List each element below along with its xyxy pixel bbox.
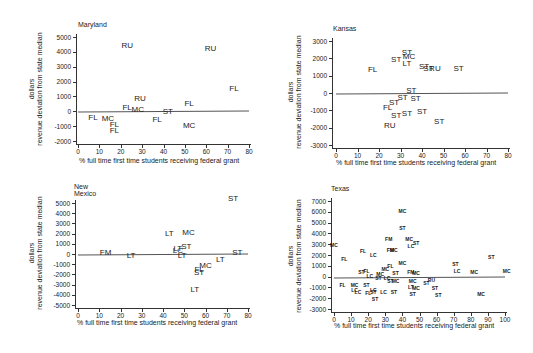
data-point-label: ST: [434, 118, 444, 126]
data-point-label: MC: [409, 278, 417, 283]
y-tick: [328, 223, 331, 224]
data-point-label: MC: [503, 269, 511, 274]
x-tick-label: 70: [220, 148, 236, 155]
y-tick: [72, 305, 75, 306]
data-point-label: MC: [477, 291, 485, 296]
y-tick-label: -3000: [297, 142, 327, 149]
y-tick-label: 7000: [296, 198, 326, 205]
data-point-label: ST: [370, 289, 376, 294]
chart-title: New Mexico: [74, 183, 96, 197]
x-axis: [332, 148, 510, 149]
data-point-label: FL: [368, 66, 377, 74]
data-point-label: LC: [355, 289, 362, 294]
data-point-label: FM: [385, 236, 392, 241]
x-tick-label: 0: [70, 312, 86, 319]
data-point-label: ST: [392, 271, 398, 276]
x-tick-label: 60: [429, 316, 445, 323]
data-point-label: RU: [134, 95, 146, 103]
y-tick-label: -5000: [40, 302, 70, 309]
y-tick-label: 4000: [40, 210, 70, 217]
x-tick-label: 80: [241, 148, 257, 155]
data-point-label: MC: [132, 106, 144, 114]
data-point-label: MC: [390, 247, 398, 252]
y-tick: [72, 285, 75, 286]
data-point-label: FL: [122, 104, 131, 112]
y-tick: [73, 82, 76, 83]
y-tick: [328, 233, 331, 234]
x-tick-label: 60: [457, 152, 473, 159]
data-point-label: MC: [182, 229, 194, 237]
y-tick-label: 3000: [40, 220, 70, 227]
y-tick-label: -2000: [297, 124, 327, 131]
y-tick-label: 3000: [296, 241, 326, 248]
data-point-label: RU: [121, 42, 133, 50]
data-point-label: RU: [205, 45, 217, 53]
y-tick: [72, 234, 75, 235]
x-tick-label: 70: [219, 312, 235, 319]
y-tick-label: 0: [40, 251, 70, 258]
y-tick-label: 6000: [296, 208, 326, 215]
x-tick-label: 80: [240, 312, 256, 319]
x-axis-label: % full time first time students receivin…: [77, 319, 237, 326]
data-point-label: ST: [488, 255, 494, 260]
y-tick: [73, 141, 76, 142]
data-point-label: ST: [423, 281, 429, 286]
data-point-label: ST: [409, 291, 415, 296]
y-tick: [73, 96, 76, 97]
data-point-label: LC: [367, 273, 374, 278]
y-axis: [75, 200, 76, 308]
x-tick-label: 0: [328, 152, 344, 159]
x-tick-label: 10: [91, 312, 107, 319]
y-tick: [328, 212, 331, 213]
y-tick-label: 5000: [296, 219, 326, 226]
data-point-label: ST: [402, 110, 412, 118]
y-tick-label: -1000: [40, 261, 70, 268]
data-point-label: LT: [178, 252, 187, 260]
y-tick: [328, 309, 331, 310]
data-point-label: FL: [184, 100, 193, 108]
data-point-label: ST: [391, 112, 401, 120]
x-tick-label: 0: [70, 148, 86, 155]
y-tick-label: 2000: [297, 55, 327, 62]
y-tick: [72, 203, 75, 204]
data-point-label: ST: [410, 95, 420, 103]
data-point-label: FL: [341, 257, 347, 262]
y-tick: [329, 145, 332, 146]
data-point-label: LT: [127, 252, 136, 260]
x-tick-label: 20: [113, 148, 129, 155]
data-point-label: LC: [454, 269, 461, 274]
x-tick-label: 20: [371, 152, 387, 159]
y-tick: [329, 128, 332, 129]
y-tick-label: 1000: [41, 93, 71, 100]
chart-title: Texas: [331, 185, 349, 192]
y-tick-label: 2000: [40, 230, 70, 237]
data-point-label: ST: [435, 292, 441, 297]
y-tick-label: 4000: [41, 48, 71, 55]
x-tick-label: 60: [198, 148, 214, 155]
y-tick: [72, 213, 75, 214]
x-tick-label: 40: [414, 152, 430, 159]
y-tick: [329, 58, 332, 59]
y-tick: [72, 264, 75, 265]
data-point-label: FL: [110, 127, 119, 135]
data-point-label: LT: [216, 256, 225, 264]
x-tick-label: 70: [446, 316, 462, 323]
x-axis-label: % full time first time students receivin…: [334, 322, 494, 329]
y-tick-label: 1000: [297, 72, 327, 79]
x-tick-label: 50: [436, 152, 452, 159]
x-tick-label: 30: [134, 148, 150, 155]
x-tick-label: 30: [377, 316, 393, 323]
data-point-label: FM: [100, 249, 112, 257]
y-tick: [72, 254, 75, 255]
data-point-label: ST: [391, 289, 397, 294]
y-tick: [73, 67, 76, 68]
x-tick-label: 50: [176, 312, 192, 319]
data-point-label: MC: [399, 208, 407, 213]
data-point-label: FL: [360, 248, 366, 253]
x-tick-label: 70: [479, 152, 495, 159]
y-tick: [329, 76, 332, 77]
y-axis: [76, 34, 77, 144]
y-tick: [328, 287, 331, 288]
y-tick: [73, 111, 76, 112]
data-point-label: LC: [370, 253, 377, 258]
